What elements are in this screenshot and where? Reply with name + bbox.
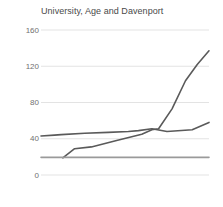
series-line-age: [63, 51, 209, 158]
series-lines: [41, 51, 209, 158]
plot-area: [0, 0, 223, 207]
gridlines: [41, 30, 209, 175]
line-chart: University, Age and Davenport 160 120 80…: [0, 0, 223, 207]
series-line-university: [41, 122, 209, 136]
